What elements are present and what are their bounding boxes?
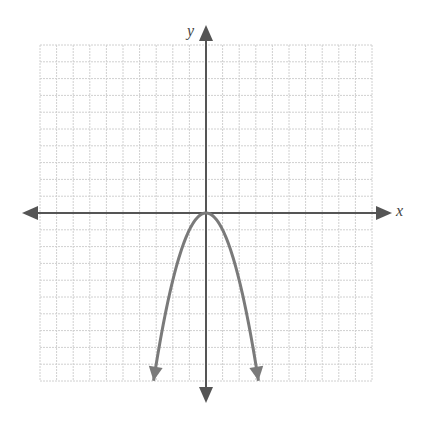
coordinate-plane: x y: [0, 0, 423, 421]
x-axis-right-arrow-icon: [376, 206, 392, 220]
x-axis-left-arrow-icon: [22, 206, 38, 220]
y-axis-down-arrow-icon: [199, 387, 213, 403]
x-axis-label: x: [395, 202, 403, 219]
y-axis-label: y: [185, 22, 195, 40]
axes: x y: [22, 22, 403, 403]
y-axis-up-arrow-icon: [199, 25, 213, 41]
